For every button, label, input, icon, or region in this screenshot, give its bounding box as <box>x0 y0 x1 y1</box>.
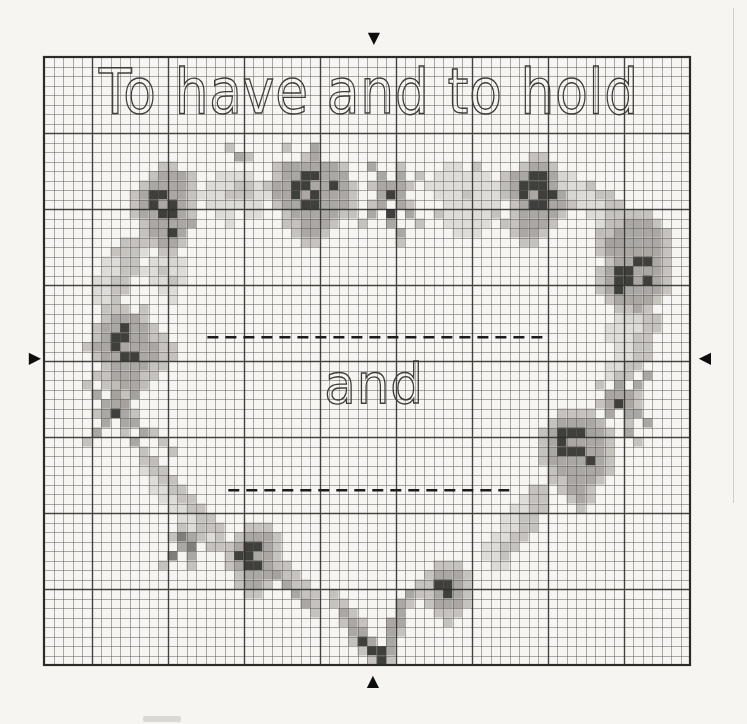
scanned-pattern-page: To have and to hold and ▼ ▲ ▶ ◀ <box>0 0 747 724</box>
center-marker-top-icon: ▼ <box>366 30 382 46</box>
center-marker-left-icon: ▶ <box>27 350 43 366</box>
center-word-lettering: and <box>254 352 493 416</box>
center-marker-right-icon: ◀ <box>697 350 713 366</box>
scan-artifact-line <box>733 8 734 503</box>
scan-artifact-smudge <box>143 716 181 722</box>
center-marker-bottom-icon: ▲ <box>365 673 381 689</box>
title-lettering: To have and to hold <box>90 58 649 126</box>
